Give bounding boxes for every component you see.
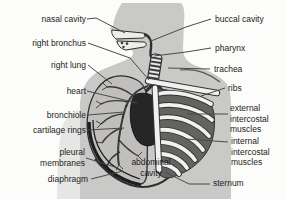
label-trachea: trachea [214,64,242,74]
label-diaphragm: diaphragm [48,174,88,184]
label-buccal-cavity: buccal cavity [215,14,264,24]
label-pleural-membranes: pleural membranes [27,147,85,168]
label-cartilage-rings: cartilage rings [33,125,86,135]
label-external-intercostal-muscles: external intercostal muscles [230,103,284,135]
label-right-lung: right lung [51,60,86,70]
label-right-bronchus: right bronchus [32,38,86,48]
label-heart: heart [67,86,86,96]
diagram-canvas: nasal cavity right bronchus right lung h… [0,0,286,199]
label-sternum: sternum [213,178,244,188]
label-nasal-cavity: nasal cavity [42,14,86,24]
label-pharynx: pharynx [215,43,245,53]
label-ribs: ribs [228,83,242,93]
label-internal-intercostal-muscles: internal intercostal muscles [231,136,285,168]
label-abdominal-cavity: abdominal cavity [121,157,181,178]
label-bronchiole: bronchiole [47,110,86,120]
